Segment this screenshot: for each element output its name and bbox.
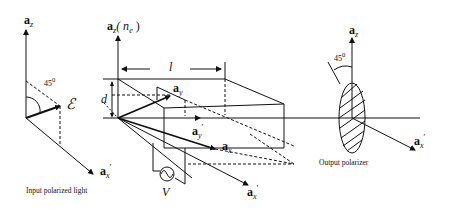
length-l-label: l bbox=[169, 61, 172, 73]
field-vector-label: ℰ bbox=[66, 97, 75, 112]
right-angle-label: 450 bbox=[334, 52, 345, 63]
voltage-label: V bbox=[162, 186, 169, 198]
right-ax-prime-label: ax′ bbox=[414, 134, 425, 150]
crystal-ay-label: ay bbox=[173, 82, 183, 97]
crystal-ay-prime-label: ay′ bbox=[192, 124, 203, 140]
crystal-ax-prime-label: ax′ bbox=[247, 185, 258, 201]
output-polarizer-caption: Output polarizer bbox=[319, 159, 368, 167]
left-ax-prime-label: ax′ bbox=[100, 164, 111, 180]
input-polarization-axes bbox=[26, 30, 93, 174]
left-az-label: az bbox=[24, 14, 33, 29]
thickness-d-label: d bbox=[101, 93, 107, 105]
right-az-label: az bbox=[349, 24, 358, 39]
left-angle-label: 450 bbox=[44, 77, 55, 88]
crystal-ax-label: ax bbox=[222, 140, 232, 155]
input-polarized-light-caption: Input polarized light bbox=[26, 187, 87, 195]
electro-optic-modulator-diagram: az 450 ℰ ax′ Input polarized light az( n… bbox=[0, 0, 449, 211]
crystal-az-label: az( ne ) bbox=[107, 20, 140, 35]
